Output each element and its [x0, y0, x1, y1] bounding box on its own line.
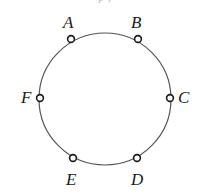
- main-circle: [39, 33, 171, 165]
- point-label-a: A: [63, 14, 73, 31]
- point-marker-b: [135, 36, 142, 43]
- point-label-c: C: [178, 89, 189, 106]
- point-marker-d: [134, 155, 141, 162]
- point-marker-a: [68, 36, 75, 43]
- point-marker-f: [37, 95, 44, 102]
- point-label-e: E: [66, 171, 76, 188]
- point-label-b: B: [131, 14, 141, 31]
- point-marker-e: [70, 155, 77, 162]
- point-marker-c: [167, 95, 174, 102]
- point-label-f: F: [21, 89, 31, 106]
- geometry-figure: p , ABCDEF: [0, 0, 210, 196]
- point-label-d: D: [131, 171, 143, 188]
- vertex-marker-group: [37, 36, 174, 162]
